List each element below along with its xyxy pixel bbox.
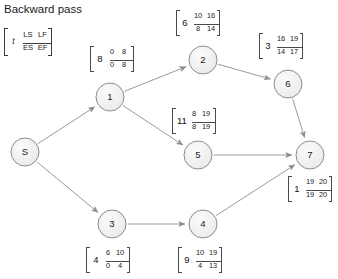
early-finish-1: 8	[114, 60, 134, 69]
node-circle-S[interactable]	[11, 138, 39, 166]
duration-5: 11	[172, 115, 192, 126]
duration-7: 1	[288, 183, 306, 194]
early-finish-5: 19	[196, 122, 216, 131]
value-box-node-6: 163191417	[259, 33, 303, 57]
edge-layer	[37, 64, 305, 224]
node-layer	[11, 46, 324, 238]
early-start-6: 14	[277, 47, 285, 56]
late-finish-5: 19	[196, 110, 216, 117]
node-circle-5[interactable]	[184, 141, 212, 169]
early-finish-4: 13	[204, 261, 222, 270]
late-finish-3: 10	[110, 249, 130, 256]
value-box-node-4: 10919413	[178, 247, 222, 271]
edge-S-to-1	[38, 107, 94, 144]
early-start-2: 8	[194, 24, 202, 33]
node-circle-7[interactable]	[296, 141, 324, 169]
duration-3: 4	[86, 254, 106, 265]
late-finish-6: 19	[285, 35, 303, 42]
node-circle-2[interactable]	[189, 46, 217, 74]
early-finish-2: 14	[202, 24, 220, 33]
edge-4-to-7	[216, 165, 294, 216]
late-finish-7: 20	[314, 178, 332, 185]
early-start-7: 19	[306, 190, 314, 199]
duration-6: 3	[259, 40, 277, 51]
node-circle-3[interactable]	[98, 210, 126, 238]
late-start-7: 19	[306, 178, 314, 185]
value-box-node-7: 191201920	[288, 176, 332, 200]
duration-4: 9	[178, 254, 196, 265]
early-finish-7: 20	[314, 190, 332, 199]
node-circle-1[interactable]	[96, 83, 124, 111]
value-box-node-5: 81119819	[172, 108, 216, 132]
late-start-6: 16	[277, 35, 285, 42]
duration-1: 8	[90, 53, 110, 64]
early-start-4: 4	[196, 261, 204, 270]
early-finish-6: 17	[285, 47, 303, 56]
duration-2: 6	[176, 17, 194, 28]
late-start-4: 10	[196, 249, 204, 256]
late-start-2: 10	[194, 12, 202, 19]
value-box-node-2: 10616814	[176, 10, 220, 34]
network-diagram-canvas: Backward pass LS t LF ES EF S1234567 088…	[0, 0, 338, 279]
edge-2-to-6	[218, 64, 270, 79]
edge-S-to-3	[37, 162, 98, 212]
edge-6-to-7	[293, 99, 305, 138]
value-box-node-1: 08808	[90, 46, 134, 70]
early-finish-3: 4	[110, 261, 130, 270]
value-box-node-3: 641004	[86, 247, 130, 271]
late-finish-2: 16	[202, 12, 220, 19]
late-finish-1: 8	[114, 48, 134, 55]
node-circle-4[interactable]	[189, 210, 217, 238]
node-circle-6[interactable]	[274, 70, 302, 98]
late-finish-4: 19	[204, 249, 222, 256]
